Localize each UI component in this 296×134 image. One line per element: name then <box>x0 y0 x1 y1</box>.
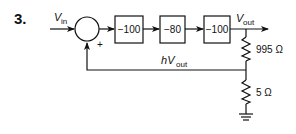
gain-block-3: −100 <box>204 16 230 43</box>
feedback-amplifier-diagram: 3. V in + −100 −80 −100 V out 995 Ω 5 Ω <box>0 0 296 134</box>
feedback-label: hV out <box>161 54 188 69</box>
svg-text:out: out <box>243 18 255 27</box>
svg-text:−100: −100 <box>118 24 141 35</box>
resistor-995-label: 995 Ω <box>256 44 283 55</box>
resistor-995-icon <box>242 37 250 61</box>
problem-number: 3. <box>14 10 27 27</box>
gain-block-1: −100 <box>115 16 143 43</box>
svg-text:hV: hV <box>161 54 176 66</box>
input-label: V in <box>54 11 67 26</box>
svg-text:out: out <box>176 60 188 69</box>
summing-junction <box>75 17 99 41</box>
svg-text:in: in <box>61 17 67 26</box>
svg-text:−100: −100 <box>206 24 229 35</box>
output-label: V out <box>236 12 255 27</box>
resistor-5-label: 5 Ω <box>256 87 272 98</box>
resistor-5-icon <box>242 80 250 104</box>
svg-text:−80: −80 <box>164 24 181 35</box>
gain-block-2: −80 <box>160 16 185 43</box>
feedback-sign: + <box>97 39 103 50</box>
ground-icon <box>239 114 253 120</box>
